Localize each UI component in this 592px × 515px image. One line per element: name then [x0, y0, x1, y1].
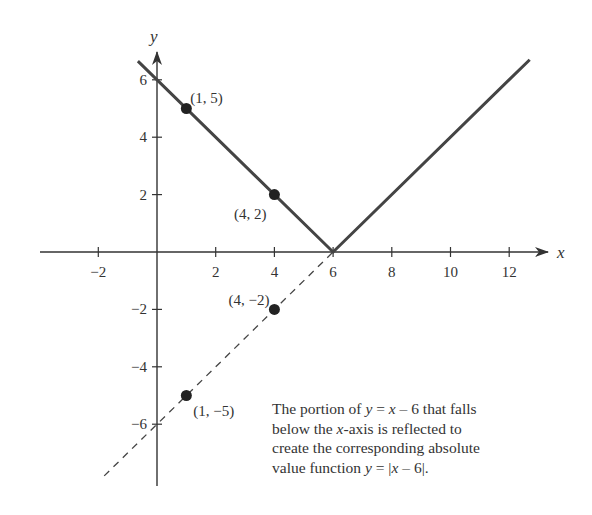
- point-label: (1, −5): [193, 403, 234, 420]
- x-tick-label: 12: [502, 264, 517, 280]
- x-tick-label: −2: [90, 264, 106, 280]
- y-axis-label: y: [148, 27, 158, 46]
- point-label: (4, −2): [228, 292, 269, 309]
- caption-line-4: value function y = |x – 6|.: [272, 458, 572, 478]
- data-point: [269, 189, 280, 200]
- y-tick-label: 4: [140, 129, 148, 145]
- data-points: (1, 5)(4, 2)(4, −2)(1, −5): [181, 90, 280, 420]
- x-tick-label: 10: [443, 264, 458, 280]
- x-tick-label: 2: [212, 264, 220, 280]
- point-label: (1, 5): [190, 90, 223, 107]
- x-tick-label: 8: [388, 264, 396, 280]
- x-tick-label: 4: [271, 264, 279, 280]
- y-tick-label: −2: [131, 301, 147, 317]
- y-tick-label: 2: [140, 187, 148, 203]
- data-point: [181, 390, 192, 401]
- y-tick-label: 6: [140, 72, 148, 88]
- annotation-caption: The portion of y = x – 6 that falls belo…: [272, 399, 572, 477]
- y-tick-label: −4: [131, 359, 147, 375]
- x-tick-label: 6: [329, 264, 337, 280]
- data-point: [269, 304, 280, 315]
- caption-line-2: below the x-axis is reflected to: [272, 419, 572, 439]
- caption-line-3: create the corresponding absolute: [272, 438, 572, 458]
- point-label: (4, 2): [234, 206, 267, 223]
- caption-line-1: The portion of y = x – 6 that falls: [272, 399, 572, 419]
- x-axis-label: x: [556, 243, 565, 262]
- y-tick-label: −6: [131, 416, 147, 432]
